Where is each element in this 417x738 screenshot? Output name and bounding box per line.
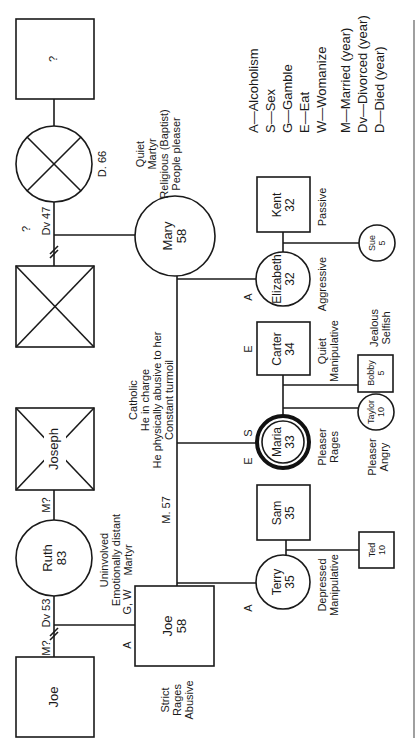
addiction-label: S [242,429,254,436]
person-name: Ruth [40,544,55,571]
person-sam: Sam 35 [257,485,310,540]
person-elizabeth: Elizabeth 32 [256,252,310,306]
person-age: 10 [376,407,386,417]
svg-text:Religious (Baptist): Religious (Baptist) [158,109,170,198]
trait-label: Passive [316,188,328,227]
person-age: 35 [283,506,297,520]
legend-item: G—Gamble [280,64,295,133]
svg-text:Quiet: Quiet [134,141,146,167]
person-carter: Carter 34 [257,322,310,375]
person-name: Carter [270,332,284,365]
person-name: ? [47,56,59,62]
person-age: 35 [283,575,297,589]
person-unknown-father: ? [16,19,94,99]
svg-text:Pleaser: Pleaser [316,428,328,466]
person-age: 32 [283,272,297,286]
legend-item: W—Womanize [314,47,329,133]
person-mary-father-deceased [16,266,94,347]
person-age: 58 [174,229,189,243]
marriage-label: ? [20,226,32,232]
person-name: Joseph [46,428,61,470]
svg-text:Manipulative: Manipulative [328,320,340,382]
person-kent: Kent 32 [257,177,310,232]
addiction-label: A [242,604,254,612]
marriage-label: M? [40,497,52,512]
divorce-label: Dv 47 [40,207,52,236]
svg-text:Martyr: Martyr [146,138,158,170]
person-name: Sue [367,235,377,251]
person-age: 34 [283,342,297,356]
person-ted: Ted 10 [359,532,394,568]
person-age: 10 [377,545,387,555]
svg-text:Depressed: Depressed [316,558,328,611]
svg-text:Rages: Rages [171,684,183,716]
joe-traits: Strict Rages Abusive [159,680,195,719]
svg-text:Jealous: Jealous [368,309,380,347]
addiction-label: G, W [121,589,133,615]
person-ruth: Ruth 83 [16,520,92,596]
person-name: Sam [270,501,284,526]
person-joe: Joe 58 [135,586,214,666]
svg-text:Manipulative: Manipulative [328,554,340,616]
person-name: Bobby [366,360,376,386]
svg-text:Selfish: Selfish [380,311,392,344]
mary-traits: Quiet Martyr Religious (Baptist) People … [134,109,182,198]
legend: A—Alcoholism S—Sex G—Gamble E—Eat W—Woma… [246,15,387,133]
person-age: 33 [283,435,297,449]
legend-item: D—Died (year) [372,46,387,133]
person-name: Terry [270,569,284,596]
person-name: Maria [270,427,284,457]
svg-text:Pleaser: Pleaser [366,438,378,476]
divorce-label: Dv 53 [40,599,52,628]
person-joseph-deceased: Joseph [16,408,94,490]
person-joe-sr: Joe [16,657,94,737]
svg-text:Martyr: Martyr [122,544,134,576]
marriage-label: M. 57 [160,496,172,524]
person-bobby: Bobby 5 [358,355,393,392]
person-age: 5 [377,240,387,245]
person-age: 5 [376,370,386,375]
person-name: Kent [270,192,284,217]
legend-item: A—Alcoholism [246,48,261,133]
svg-text:Abusive: Abusive [183,680,195,719]
person-taylor: Taylor 10 [358,394,394,430]
legend-item: Dv—Divorced (year) [355,15,370,133]
addiction-label: A [121,641,133,649]
trait-label: Aggressive [316,257,328,311]
taylor-traits: Pleaser Angry [366,438,390,476]
legend-item: E—Eat [297,91,312,133]
addiction-label: E [242,457,254,464]
person-terry: Terry 35 [256,555,310,609]
person-maria-index: Maria 33 [257,416,309,468]
svg-text:Catholic: Catholic [127,380,139,420]
addiction-label: E [242,345,254,352]
svg-text:Constant turmoil: Constant turmoil [163,360,175,440]
svg-text:People pleaser: People pleaser [170,117,182,191]
joe-mary-relationship-notes: Catholic He in charge He physically abus… [127,331,175,468]
person-age: 58 [174,619,189,633]
svg-text:Angry: Angry [378,442,390,471]
person-sue: Sue 5 [359,225,395,261]
bobby-traits: Jealous Selfish [368,309,392,347]
terry-traits: Depressed Manipulative [316,554,340,616]
person-name: Taylor [366,400,376,424]
person-name: Ted [367,543,377,558]
death-note: D. 66 [96,151,108,177]
legend-item: S—Sex [263,88,278,133]
maria-traits: Pleaser Rages [316,428,340,466]
addiction-label: A [242,293,254,301]
svg-text:He physically abusive to her: He physically abusive to her [151,331,163,468]
genogram-diagram: ? D. 66 Dv 47 ? Joseph M? Ruth 83 Uninvo… [0,0,417,738]
svg-text:Quiet: Quiet [316,338,328,364]
person-name: Joe [46,687,61,708]
person-mary: Mary 58 [135,196,215,276]
legend-item: M—Married (year) [338,28,353,133]
svg-text:Rages: Rages [328,431,340,463]
person-age: 83 [54,551,69,565]
person-name: Mary [160,221,175,250]
person-name: Elizabeth [270,254,284,303]
person-name: Joe [160,616,175,637]
svg-text:Strict: Strict [159,687,171,712]
carter-traits: Quiet Manipulative [316,320,340,382]
marriage-label: M? [40,640,52,655]
